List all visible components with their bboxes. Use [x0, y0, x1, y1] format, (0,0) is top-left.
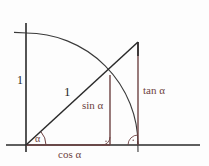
arc-left-tick	[14, 32, 27, 33]
label-hypotenuse-radius: 1	[64, 85, 71, 98]
angle-alpha-arc	[41, 132, 46, 145]
right-angle-dot-tangent	[133, 140, 134, 141]
label-cosine: cos α	[58, 149, 81, 160]
label-vertical-radius: 1	[17, 74, 23, 86]
hypotenuse-radius	[26, 42, 138, 145]
unit-circle-arc	[26, 33, 138, 145]
label-angle-alpha: α	[35, 134, 40, 144]
diagram-canvas	[0, 0, 209, 166]
trigonometry-diagram: 1 1 sin α tan α cos α α	[0, 0, 209, 166]
label-tangent: tan α	[143, 85, 165, 96]
label-sine: sin α	[82, 100, 103, 111]
right-angle-dot-sine	[105, 141, 106, 142]
